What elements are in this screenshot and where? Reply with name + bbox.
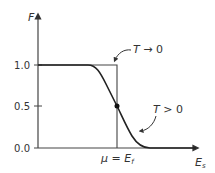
x-axis-label: Es (195, 156, 206, 170)
fermi-energy-E: E (124, 152, 131, 165)
mu-fermi-label: μ = Ef (100, 152, 135, 166)
mu-symbol: μ (100, 152, 108, 165)
annotation-T-zero: T → 0 (133, 43, 163, 56)
fermi-dirac-chart: 1.0 0.5 0.0 F Es μ = Ef T → 0 T > 0 (0, 0, 215, 173)
annotation-T-zero-arrow (115, 50, 131, 60)
half-occupancy-dot (115, 104, 120, 109)
equals-sign: = (108, 152, 124, 165)
x-axis-label-sub: s (202, 162, 206, 170)
y-tick-label-0-0: 0.0 (14, 143, 30, 154)
step-curve-T-zero (38, 65, 117, 148)
annotation-T-positive-arrow (141, 116, 156, 131)
fermi-energy-sub: f (131, 158, 135, 166)
x-axis-label-main: E (195, 156, 202, 169)
y-tick-label-1-0: 1.0 (14, 60, 30, 71)
y-axis-label: F (28, 11, 35, 24)
annotation-T-positive: T > 0 (153, 103, 183, 116)
y-tick-label-0-5: 0.5 (14, 101, 30, 112)
